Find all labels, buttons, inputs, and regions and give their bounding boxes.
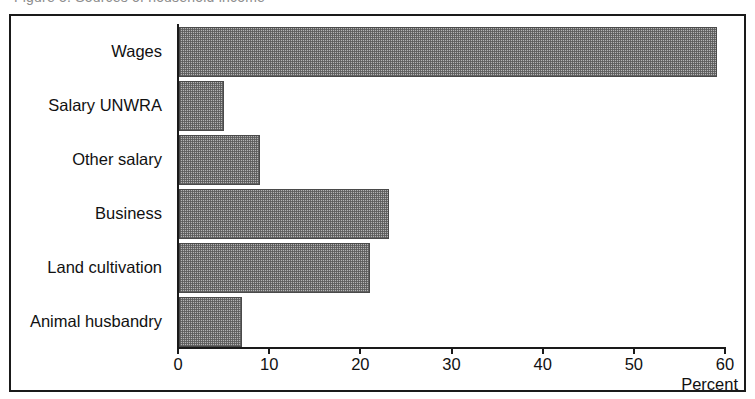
value-axis-tick <box>359 347 361 354</box>
category-label-animal-husbandry: Animal husbandry <box>30 313 162 330</box>
value-axis-tick <box>451 347 453 354</box>
category-label-wages: Wages <box>111 43 162 60</box>
figure-caption-text: Figure 5. Sources of household income <box>14 0 265 5</box>
category-label-business: Business <box>95 205 162 222</box>
category-label-land-cultivation: Land cultivation <box>47 259 162 276</box>
figure-caption-strip: Figure 5. Sources of household income <box>0 0 755 12</box>
bar-other-salary <box>179 135 260 185</box>
value-axis-tick-label: 30 <box>442 356 460 373</box>
value-axis-tick-label: 60 <box>716 356 734 373</box>
value-axis-tick-label: 50 <box>625 356 643 373</box>
bar-land-cultivation <box>179 243 370 293</box>
bar-animal-husbandry <box>179 297 242 347</box>
category-label-salary-unwra: Salary UNWRA <box>48 97 162 114</box>
value-axis-tick <box>724 347 726 354</box>
value-axis-tick-label: 20 <box>351 356 369 373</box>
value-axis-title: Percent <box>681 376 738 393</box>
bar-wages <box>179 27 717 77</box>
bar-chart-plot-area: Wages Salary UNWRA Other salary Business… <box>11 16 744 390</box>
value-axis-tick <box>633 347 635 354</box>
value-axis-tick <box>268 347 270 354</box>
value-axis-tick-label: 10 <box>260 356 278 373</box>
bar-business <box>179 189 389 239</box>
value-axis-tick-label: 0 <box>173 356 182 373</box>
value-axis-tick-label: 40 <box>533 356 551 373</box>
value-axis-tick <box>542 347 544 354</box>
bar-salary-unwra <box>179 81 224 131</box>
figure-frame: Wages Salary UNWRA Other salary Business… <box>9 14 746 392</box>
category-label-other-salary: Other salary <box>72 151 162 168</box>
value-axis-tick <box>177 347 179 354</box>
